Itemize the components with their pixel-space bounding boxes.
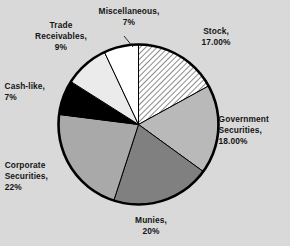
slice-label-munies: Munies, 20% (117, 215, 186, 237)
slice-label-government-securities: Government Securities, 18.00% (219, 114, 288, 147)
slice-label-stock: Stock, 17.00% (179, 26, 253, 48)
slice-label-trade-receivables: Trade Receivables, 9% (25, 20, 98, 53)
slice-label-cash-like: Cash-like, 7% (5, 81, 72, 103)
slice-label-corporate-securities: Corporate Securities, 22% (5, 160, 76, 193)
pie-chart-figure: Miscellaneous, 7% Stock, 17.00% Governme… (0, 0, 290, 246)
